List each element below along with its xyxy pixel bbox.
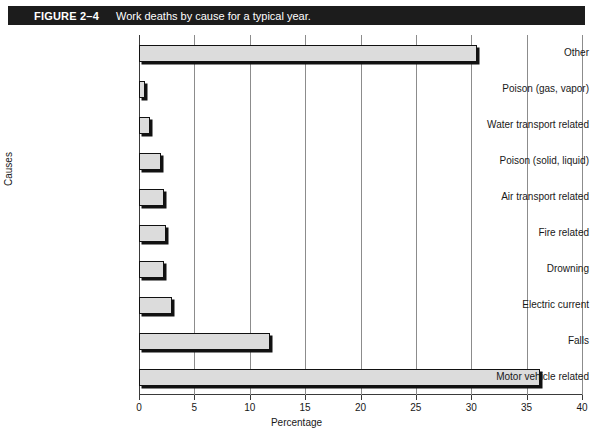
x-tick-mark — [471, 395, 472, 400]
category-label: Air transport related — [460, 191, 593, 202]
y-axis-title: Causes — [3, 152, 14, 186]
category-label: Water transport related — [460, 119, 593, 130]
x-tick-label: 5 — [179, 402, 209, 413]
x-tick-label: 10 — [235, 402, 265, 413]
bar[interactable] — [139, 297, 172, 314]
x-tick-mark — [305, 395, 306, 400]
figure-number: FIGURE 2–4 — [34, 10, 99, 22]
bar[interactable] — [139, 153, 161, 170]
x-tick-label: 15 — [290, 402, 320, 413]
x-tick-label: 30 — [456, 402, 486, 413]
x-tick-mark — [416, 395, 417, 400]
x-axis-title: Percentage — [0, 417, 593, 428]
category-label: Fire related — [460, 227, 593, 238]
category-label: Other — [460, 47, 593, 58]
x-tick-mark — [250, 395, 251, 400]
category-label: Falls — [460, 335, 593, 346]
category-label: Poison (gas, vapor) — [460, 83, 593, 94]
bar[interactable] — [139, 117, 150, 134]
figure-title-banner: FIGURE 2–4 Work deaths by cause for a ty… — [8, 6, 585, 25]
x-tick-label: 35 — [512, 402, 542, 413]
bar[interactable] — [139, 45, 477, 62]
figure-caption: Work deaths by cause for a typical year. — [116, 10, 311, 22]
bar[interactable] — [139, 189, 164, 206]
category-label: Poison (solid, liquid) — [460, 155, 593, 166]
x-tick-label: 25 — [401, 402, 431, 413]
x-tick-label: 0 — [124, 402, 154, 413]
bar[interactable] — [139, 225, 166, 242]
bar[interactable] — [139, 333, 270, 350]
category-label: Motor vehicle related — [460, 371, 593, 382]
category-label: Electric current — [460, 299, 593, 310]
x-tick-mark — [361, 395, 362, 400]
x-tick-label: 40 — [567, 402, 593, 413]
x-tick-label: 20 — [346, 402, 376, 413]
bar[interactable] — [139, 81, 145, 98]
x-tick-mark — [139, 395, 140, 400]
bar-chart: OtherPoison (gas, vapor)Water transport … — [0, 26, 593, 415]
x-tick-mark — [582, 395, 583, 400]
category-label: Drowning — [460, 263, 593, 274]
x-tick-mark — [194, 395, 195, 400]
bar[interactable] — [139, 261, 164, 278]
x-tick-mark — [527, 395, 528, 400]
